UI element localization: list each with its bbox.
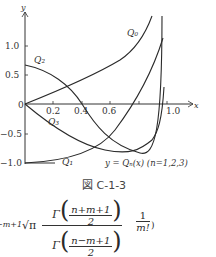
curve-q3 xyxy=(25,87,164,152)
one-over-mfact: 1 m! xyxy=(136,210,150,233)
label-q2: Q₂ xyxy=(34,55,45,65)
y-axis-label: y xyxy=(20,3,26,12)
curve-q1 xyxy=(25,38,163,163)
formula: −m+1 √π Γ(n+m+12) Γ(n−m+12) 1 m! ) xyxy=(0,196,216,257)
label-q1: Q₁ xyxy=(62,157,73,167)
fraction-numerator: Γ(n+m+12) xyxy=(42,196,132,227)
y-tick-0: 0 xyxy=(18,100,24,110)
formula-close-paren: ) xyxy=(151,220,155,230)
label-q0: Q₀ xyxy=(127,28,138,38)
formula-sqrt-pi: √π xyxy=(22,219,36,232)
plot-area: 1.0 0.5 0 −0.5 −1.0 0.2 0.4 0.6 1.0 x y … xyxy=(0,0,216,176)
formula-prefix: −m+1 xyxy=(0,220,22,229)
label-q3: Q₃ xyxy=(48,117,59,127)
y-tick-0.5: 0.5 xyxy=(5,70,20,80)
x-axis-label: x xyxy=(194,101,199,110)
x-tick-0.6: 0.6 xyxy=(102,106,117,116)
fraction-denominator: Γ(n−m+12) xyxy=(42,227,132,257)
legend-label: y = Qₙ(x) (n=1,2,3) xyxy=(104,158,188,168)
curve-q2 xyxy=(25,16,162,153)
y-tick-1.0: 1.0 xyxy=(5,41,20,51)
y-tick-neg1.0: −1.0 xyxy=(0,158,22,168)
figure-caption: 図 C-1-3 xyxy=(82,176,126,192)
x-tick-1.0: 1.0 xyxy=(166,106,181,116)
y-tick-neg0.5: −0.5 xyxy=(0,129,22,139)
x-tick-0.2: 0.2 xyxy=(46,106,60,116)
